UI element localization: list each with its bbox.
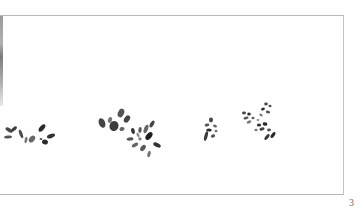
leaf-cluster-5 — [242, 103, 276, 141]
leaf-cluster-4 — [203, 118, 217, 142]
document-page: 3 — [0, 0, 364, 210]
leaf-cluster-1 — [4, 123, 56, 145]
leaf-cluster-3 — [126, 120, 161, 158]
foliage-illustration — [0, 0, 364, 210]
leaf-cluster-2 — [97, 108, 131, 133]
page-number: 3 — [349, 198, 354, 208]
